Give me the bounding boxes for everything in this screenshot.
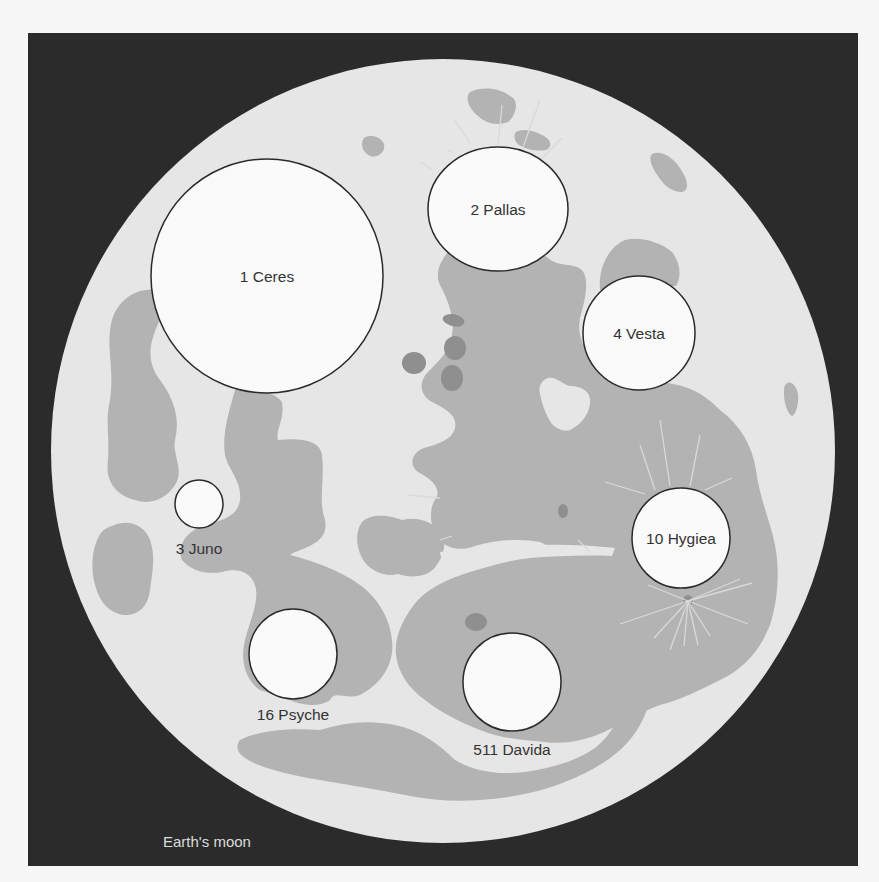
asteroid-label-ceres: 1 Ceres (240, 268, 295, 285)
moon-asteroid-comparison-diagram: 1 Ceres 2 Pallas 4 Vesta 10 Hygiea 3 Jun… (0, 0, 879, 882)
dark-spot-b (444, 336, 466, 360)
caption-earths-moon: Earth's moon (163, 833, 251, 850)
dark-spot-e (558, 504, 568, 518)
asteroid-label-pallas: 2 Pallas (470, 201, 525, 218)
asteroid-label-juno: 3 Juno (176, 540, 223, 557)
mare-middle-cloud (357, 516, 444, 577)
asteroid-ceres: 1 Ceres (151, 159, 383, 393)
dark-spot-f (465, 613, 487, 631)
asteroid-label-vesta: 4 Vesta (613, 325, 665, 342)
asteroid-pallas: 2 Pallas (428, 147, 568, 271)
asteroid-hygiea: 10 Hygiea (632, 488, 730, 588)
dark-spot-c (441, 365, 463, 391)
asteroid-psyche: 16 Psyche (249, 609, 337, 723)
asteroid-label-davida: 511 Davida (473, 741, 551, 758)
dark-spot-d (402, 352, 426, 374)
asteroid-label-hygiea: 10 Hygiea (646, 530, 716, 547)
asteroid-vesta: 4 Vesta (583, 276, 695, 390)
asteroid-label-psyche: 16 Psyche (257, 706, 329, 723)
asteroid-juno: 3 Juno (175, 480, 223, 557)
